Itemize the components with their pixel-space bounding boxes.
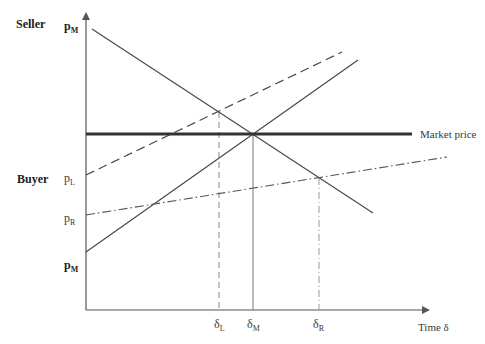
market-price-label: Market price <box>420 129 477 140</box>
buyer-left-line <box>86 52 342 175</box>
buyer-right-line <box>86 157 447 215</box>
y-tick-pM-top: pM <box>64 20 78 32</box>
y-tick-pR: pR <box>64 212 75 224</box>
x-tick-delta-L: δL <box>214 318 225 330</box>
x-axis-label: Time δ <box>418 322 449 333</box>
y-tick-pM-bottom: pM <box>64 259 78 271</box>
x-tick-delta-M: δM <box>247 318 260 330</box>
x-tick-delta-R: δR <box>313 318 324 330</box>
y-tick-pL: pL <box>64 172 75 184</box>
seller-reservation-line <box>92 29 373 213</box>
seller-label: Seller <box>16 18 45 30</box>
buyer-label: Buyer <box>17 173 48 185</box>
